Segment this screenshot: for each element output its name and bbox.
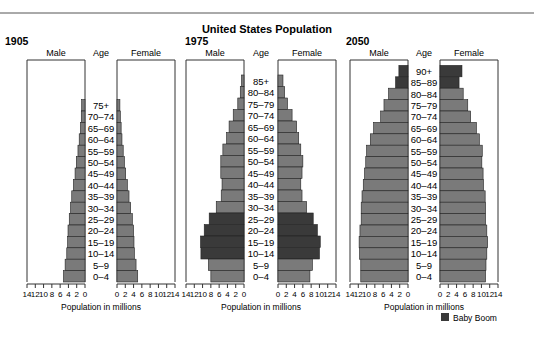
bar-male-25–29 [209,213,244,225]
age-label: 20–24 [88,225,114,236]
age-label: 0–4 [253,271,269,282]
bar-female-50–54 [278,156,303,168]
age-label: 55–59 [88,146,114,157]
bar-female-10–14 [117,248,134,259]
bar-female-80–84 [278,87,285,99]
bar-male-25–29 [69,214,85,225]
bar-female-5–9 [278,259,312,271]
male-tick-label: 6 [58,290,63,299]
age-label: 30–34 [411,203,437,214]
bar-male-40–44 [222,179,244,191]
age-label: 60–64 [411,134,437,145]
legend: Baby Boom [441,313,497,323]
age-label: 10–14 [411,248,437,259]
age-label: 65–69 [88,123,114,134]
bar-male-70–74 [81,111,85,122]
header-female: Female [131,48,161,58]
male-tick-label: 4 [66,290,71,299]
bar-female-50–54 [117,157,124,168]
age-label: 50–54 [88,157,114,168]
male-tick-label: 6 [381,290,386,299]
bar-male-85–89 [396,77,408,88]
bar-male-75–79 [384,100,408,111]
header-female: Female [454,48,484,58]
legend-swatch [441,313,449,321]
bar-female-45–49 [440,168,483,179]
bar-male-15–19 [201,236,245,248]
bar-female-15–19 [440,236,488,247]
age-label: 45–49 [411,168,437,179]
bar-male-85+ [242,75,244,87]
age-label: 15–19 [88,237,114,248]
bar-female-40–44 [117,179,127,190]
header-male: Male [205,48,225,58]
bar-male-40–44 [363,179,408,190]
age-label: 20–24 [248,225,274,236]
panel-1905: 1905MaleAgeFemale75+70–7465–6960–6455–59… [5,35,180,312]
age-label: 45–49 [88,168,114,179]
bar-male-20–24 [204,225,244,237]
bar-female-10–14 [440,248,487,259]
male-tick-label: 10 [362,290,371,299]
bar-male-0–4 [361,271,408,282]
male-tick-label: 12 [354,290,363,299]
bar-female-70–74 [440,111,471,122]
female-tick-label: 4 [292,290,297,299]
female-tick-label: 0 [438,290,443,299]
age-label: 85–89 [411,77,437,88]
bar-female-10–14 [278,248,319,260]
male-tick-label: 8 [373,290,378,299]
bar-male-75+ [82,100,85,111]
bar-male-5–9 [65,259,85,270]
bar-female-20–24 [117,225,134,236]
bar-male-65–69 [374,122,408,133]
age-label: 80–84 [411,89,437,100]
age-label: 55–59 [411,146,437,157]
age-label: 70–74 [248,110,274,121]
bar-female-30–34 [278,202,307,214]
age-label: 65–69 [248,122,274,133]
population-pyramid-chart: United States Population 1905MaleAgeFema… [0,0,534,340]
bar-female-25–29 [117,214,132,225]
age-label: 75–79 [411,100,437,111]
panel-year: 1905 [5,35,29,47]
bar-male-45–49 [75,168,85,179]
female-tick-label: 2 [284,290,289,299]
female-tick-label: 2 [123,290,128,299]
bar-male-10–14 [201,248,244,260]
legend-label: Baby Boom [453,313,497,323]
female-tick-label: 14 [494,290,503,299]
age-label: 30–34 [88,203,114,214]
male-tick-label: 2 [397,290,402,299]
bar-female-60–64 [440,134,479,145]
bar-female-75–79 [278,98,288,110]
age-label: 20–24 [411,225,437,236]
x-axis-label: Population in millions [384,302,464,312]
bar-male-55–59 [78,145,85,156]
bar-male-55–59 [223,144,244,156]
bar-female-30–34 [117,202,131,213]
bar-male-15–19 [68,236,85,247]
female-tick-label: 14 [332,290,341,299]
bar-male-80–84 [240,87,244,99]
age-label: 80–84 [248,87,274,98]
bar-male-30–34 [216,202,244,214]
age-label: 50–54 [411,157,437,168]
male-tick-label: 12 [190,290,199,299]
bar-male-45–49 [221,167,244,179]
bar-male-5–9 [361,259,408,270]
bar-female-70–74 [117,111,120,122]
bar-male-30–34 [361,202,408,213]
bar-male-75–79 [238,98,244,110]
age-label: 0–4 [93,271,109,282]
bar-male-60–64 [227,133,244,145]
age-label: 40–44 [248,179,274,190]
bar-male-90+ [399,65,408,76]
male-tick-label: 8 [209,290,214,299]
age-label: 5–9 [93,260,109,271]
bar-male-65–69 [229,121,244,133]
male-tick-label: 8 [50,290,55,299]
bar-male-50–54 [221,156,244,168]
bar-female-65–69 [117,122,121,133]
bar-female-75–79 [440,100,468,111]
